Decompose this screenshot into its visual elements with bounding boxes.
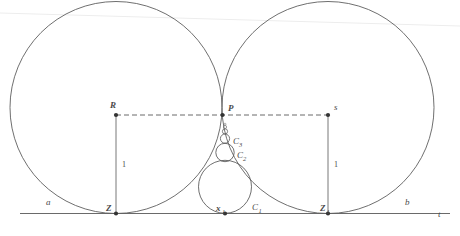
circle-c3 (220, 134, 229, 143)
scan-artifact-line (0, 13, 460, 26)
label-point-s: s (334, 102, 338, 112)
label-point-Z1-base: Z (319, 203, 326, 213)
diagram-svg: t a b R P s Z Z 1 x 1 C 1 C 2 C 3 1 1 (0, 0, 460, 236)
label-point-x1-base: x (215, 203, 221, 213)
label-point-Z: Z (105, 203, 112, 213)
label-circle-c3-sub: 3 (238, 141, 243, 148)
label-point-R: R (109, 100, 116, 110)
circle-c2 (216, 143, 234, 161)
label-circle-c1-sub: 1 (259, 207, 262, 214)
circle-c1 (199, 160, 252, 213)
point-marker-P (220, 113, 224, 117)
label-circle-c3: C 3 (233, 136, 243, 148)
label-point-x1-sub: 1 (222, 208, 225, 215)
label-point-Z1-sub: 1 (327, 208, 330, 215)
geometric-figure-canvas: t a b R P s Z Z 1 x 1 C 1 C 2 C 3 1 1 (0, 0, 460, 236)
point-marker-R (114, 113, 118, 117)
label-length-right: 1 (334, 160, 338, 169)
label-circle-c1: C 1 (252, 202, 262, 214)
label-circle-c2-sub: 2 (243, 155, 247, 162)
point-marker-s (326, 113, 330, 117)
label-circle-b: b (405, 197, 410, 207)
label-point-P: P (228, 103, 234, 113)
label-length-left: 1 (122, 160, 126, 169)
label-circle-c2: C 2 (237, 150, 247, 162)
circle-c6 (224, 123, 226, 125)
label-circle-a: a (46, 197, 51, 207)
point-marker-Z (114, 211, 118, 215)
